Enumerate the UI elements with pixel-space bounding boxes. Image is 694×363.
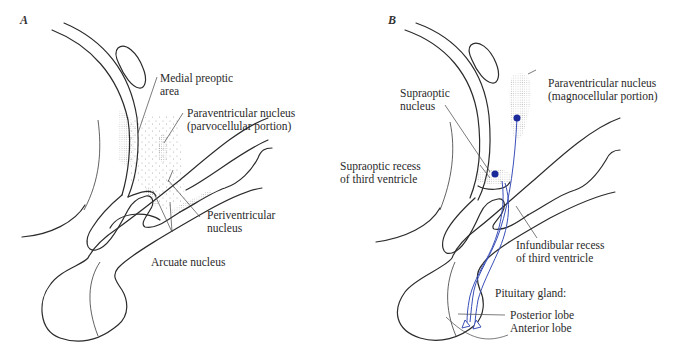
label-arcuate-nucleus: Arcuate nucleus bbox=[151, 256, 225, 269]
label-infundibular-recess: Infundibular recess of third ventricle bbox=[516, 239, 604, 265]
label-posterior-lobe: Posterior lobe bbox=[510, 309, 574, 322]
panel-label-b: B bbox=[388, 13, 396, 28]
label-medial-preoptic-area: Medial preoptic area bbox=[160, 72, 233, 98]
pvn-neuron-soma bbox=[514, 115, 521, 122]
hypothalamus-pituitary-figure: A B Medial preoptic area Paraventricular… bbox=[0, 0, 694, 363]
label-paraventricular-magnocellular: Paraventricular nucleus (magnocellular p… bbox=[548, 77, 658, 103]
label-supraoptic-nucleus: Supraoptic nucleus bbox=[400, 87, 450, 113]
label-periventricular-nucleus: Periventricular nucleus bbox=[207, 209, 275, 235]
label-paraventricular-parvocellular: Paraventricular nucleus (parvocellular p… bbox=[187, 107, 295, 133]
supraoptic-neuron-soma bbox=[492, 171, 499, 178]
label-pituitary-gland: Pituitary gland: bbox=[495, 287, 566, 300]
label-anterior-lobe: Anterior lobe bbox=[510, 322, 572, 335]
panel-a-drawing bbox=[22, 23, 272, 341]
label-supraoptic-recess: Supraoptic recess of third ventricle bbox=[340, 160, 421, 186]
panel-label-a: A bbox=[20, 13, 28, 28]
